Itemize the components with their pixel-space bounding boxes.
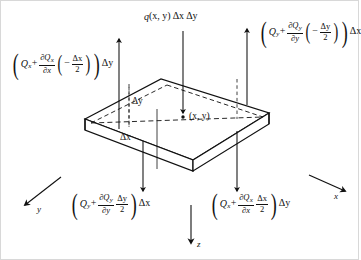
axis-z-label: z bbox=[197, 239, 201, 249]
shear-force-y-minus-label: (Qy+∂Qy∂y(−Δy2))Δx bbox=[259, 21, 361, 43]
center-point-label: (x, y) bbox=[189, 111, 210, 121]
shear-force-x-plus-label: (Qx+∂Qx∂xΔx2)Δy bbox=[210, 193, 290, 215]
load-args: (x, y) bbox=[149, 10, 171, 21]
shear-force-y-plus-label: (Qy+∂Qy∂yΔy2)Δx bbox=[70, 193, 150, 215]
plate-top-face bbox=[85, 79, 269, 160]
axis-x-label: x bbox=[334, 191, 338, 201]
dimension-label-dx: Δx bbox=[120, 132, 131, 142]
load-factor-dx: Δx bbox=[173, 10, 184, 21]
center-point-marker bbox=[181, 115, 184, 118]
axis-x-arrow bbox=[309, 175, 345, 191]
axis-y-arrow bbox=[25, 177, 61, 205]
dimension-label-dy: Δy bbox=[132, 96, 143, 106]
axis-y-label: y bbox=[37, 204, 41, 214]
shear-force-x-minus-label: (Qx+∂Qx∂x(−Δx2))Δy bbox=[11, 53, 113, 75]
distributed-load-label: q(x, y) Δx Δy bbox=[144, 11, 198, 22]
load-factor-dy: Δy bbox=[186, 10, 197, 21]
